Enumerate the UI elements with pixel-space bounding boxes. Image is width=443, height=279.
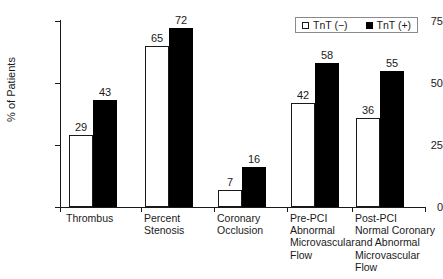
plot-area: 29 43 65 72 7 16 42 <box>60 21 425 207</box>
y-axis-title: % of Patients <box>6 35 17 145</box>
chart-legend: TnT (−) TnT (+) <box>295 17 418 33</box>
bar-percent-stenosis-tnt-negative: 65 <box>145 46 169 207</box>
legend-item-tnt-negative: TnT (−) <box>302 20 348 31</box>
bar-value-label: 58 <box>321 50 333 61</box>
x-axis-label-pre-pci: Pre-PCI Abnormal Microvascular Flow <box>290 212 362 261</box>
bar-value-label: 55 <box>386 58 398 69</box>
bar-value-label: 65 <box>151 33 163 44</box>
filled-square-swatch-icon <box>366 22 373 29</box>
legend-label: TnT (+) <box>377 20 412 31</box>
x-axis-tick-3 <box>287 207 288 212</box>
bar-group-thrombus: 29 43 <box>69 21 117 207</box>
x-axis-tick-0 <box>60 207 61 212</box>
bar-group-coronary-occlusion: 7 16 <box>218 21 266 207</box>
bar-value-label: 7 <box>227 177 233 188</box>
bar-value-label: 42 <box>297 90 309 101</box>
bar-value-label: 16 <box>248 154 260 165</box>
bar-post-pci-tnt-negative: 36 <box>356 118 380 207</box>
bar-group-percent-stenosis: 65 72 <box>145 21 193 207</box>
bar-post-pci-tnt-positive: 55 <box>380 71 404 207</box>
bar-thrombus-tnt-negative: 29 <box>69 135 93 207</box>
x-axis-tick-2 <box>214 207 215 212</box>
bar-pre-pci-tnt-negative: 42 <box>291 103 315 207</box>
x-axis-line <box>60 207 426 208</box>
bar-group-pre-pci-abnormal-microvascular-flow: 42 58 <box>291 21 339 207</box>
bar-chart-figure: 0 25 50 75 % of Patients 29 43 65 72 <box>0 0 443 279</box>
x-axis-label-percent-stenosis: Percent Stenosis <box>144 212 214 236</box>
bar-value-label: 29 <box>75 122 87 133</box>
legend-label: TnT (−) <box>313 20 348 31</box>
x-axis-label-thrombus: Thrombus <box>66 212 140 224</box>
open-square-swatch-icon <box>302 22 309 29</box>
bar-value-label: 36 <box>362 105 374 116</box>
bar-value-label: 43 <box>99 87 111 98</box>
bar-coronary-occlusion-tnt-negative: 7 <box>218 190 242 207</box>
x-axis-label-coronary-occlusion: Coronary Occlusion <box>217 212 287 236</box>
bar-value-label: 72 <box>175 15 187 26</box>
bar-percent-stenosis-tnt-positive: 72 <box>169 28 193 207</box>
bar-group-post-pci-normal-coronary-and-abnormal-microvascular-flow: 36 55 <box>356 21 404 207</box>
bar-pre-pci-tnt-positive: 58 <box>315 63 339 207</box>
bar-coronary-occlusion-tnt-positive: 16 <box>242 167 266 207</box>
legend-item-tnt-positive: TnT (+) <box>366 20 412 31</box>
x-axis-label-post-pci: Post-PCI Normal Coronary and Abnormal Mi… <box>355 212 443 273</box>
bar-thrombus-tnt-positive: 43 <box>93 100 117 207</box>
x-axis-tick-1 <box>141 207 142 212</box>
